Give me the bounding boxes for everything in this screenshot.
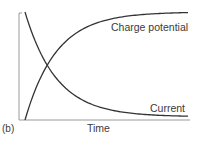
- x-axis-label: Time: [87, 123, 110, 134]
- charge-potential-label: Charge potential: [111, 22, 188, 33]
- current-label: Current: [150, 103, 185, 114]
- y-axis: [19, 13, 22, 120]
- panel-label: (b): [2, 124, 14, 134]
